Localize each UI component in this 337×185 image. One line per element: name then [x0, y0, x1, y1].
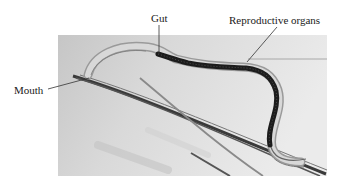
label-gut: Gut	[151, 13, 168, 24]
leader-lines	[0, 0, 337, 185]
label-reproductive-organs: Reproductive organs	[229, 15, 320, 26]
reproductive-leader-line	[247, 27, 277, 62]
label-mouth: Mouth	[14, 85, 43, 96]
mouth-leader-line	[48, 78, 89, 89]
labeled-micrograph: Gut Reproductive organs Mouth	[0, 0, 337, 185]
